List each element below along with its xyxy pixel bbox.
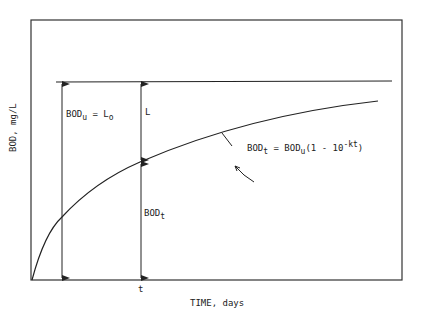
x-tick-t: t [138, 284, 143, 294]
formula-label: BODt = BODu(1 - 10-kt) [247, 143, 363, 153]
y-axis-label: BOD, mg/L [8, 103, 18, 152]
bodt-label: BODt [144, 208, 165, 218]
bodu-asymptote-line [56, 81, 392, 82]
bodu-label: BODu = Lo [66, 109, 114, 119]
formula-leader-tip [222, 133, 232, 146]
x-axis-label: TIME, days [190, 298, 244, 308]
formula-leader-arrowhead [235, 166, 244, 175]
remaining-l-label: L [145, 107, 150, 117]
bod-diagram [0, 0, 430, 312]
bod-curve [32, 101, 378, 280]
formula-leader-line [244, 175, 254, 182]
